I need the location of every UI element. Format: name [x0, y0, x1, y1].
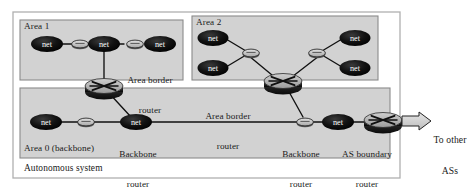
net-node: net — [322, 114, 354, 130]
net-label: net — [333, 118, 344, 127]
caption-line-1: Area border — [112, 76, 188, 86]
net-label: net — [155, 40, 166, 49]
caption-line-2: router — [272, 180, 330, 190]
caption-line-2: router — [190, 142, 266, 152]
caption-line-2: router — [334, 180, 400, 190]
link-router-icon — [72, 40, 89, 49]
area-1-nodes: net net net — [31, 36, 176, 52]
caption-line-1: Area border — [190, 112, 266, 122]
caption-line-1: Backbone — [272, 150, 330, 160]
area-1-label: Area 1 — [24, 22, 49, 32]
link-router-icon — [309, 49, 326, 58]
net-label: net — [99, 40, 110, 49]
to-other-as-line-2: ASs — [433, 166, 467, 176]
net-label: net — [208, 34, 219, 43]
area-0-label: Area 0 (backbone) — [24, 144, 94, 154]
caption-line-1: Backbone — [110, 150, 166, 160]
net-node: net — [31, 36, 63, 52]
net-node: net — [144, 36, 176, 52]
caption-line-2: router — [110, 180, 166, 190]
link-router-icon — [78, 118, 95, 127]
area-2-label: Area 2 — [196, 18, 221, 28]
autonomous-system-label: Autonomous system — [24, 163, 103, 173]
net-label: net — [350, 64, 361, 73]
area-border-router-right-caption: Area border router — [190, 92, 266, 172]
backbone-router-right-caption: Backbone router — [272, 130, 330, 190]
to-other-as-line-1: To other — [433, 135, 467, 145]
caption-line-1: AS boundary — [334, 150, 400, 160]
to-other-as-label: To other ASs — [433, 114, 467, 190]
area-border-router-right-icon — [264, 74, 302, 95]
net-node: net — [340, 60, 371, 76]
net-label: net — [42, 40, 53, 49]
caption-line-2: router — [112, 106, 188, 116]
diagram-canvas: net net net net — [0, 0, 467, 190]
net-node: net — [198, 30, 229, 46]
net-node: net — [340, 30, 371, 46]
net-label: net — [41, 118, 52, 127]
net-node: net — [198, 60, 229, 76]
net-node: net — [30, 114, 62, 130]
link-router-icon — [297, 118, 314, 127]
link-router-icon — [127, 40, 144, 49]
to-other-as-arrow-icon — [402, 112, 431, 130]
as-boundary-router-caption: AS boundary router — [334, 130, 400, 190]
net-node: net — [88, 36, 120, 52]
backbone-router-left-caption: Backbone router — [110, 130, 166, 190]
link-router-icon — [243, 49, 260, 58]
net-label: net — [208, 64, 219, 73]
area-border-router-left-caption: Area border router — [112, 56, 188, 136]
net-label: net — [350, 34, 361, 43]
